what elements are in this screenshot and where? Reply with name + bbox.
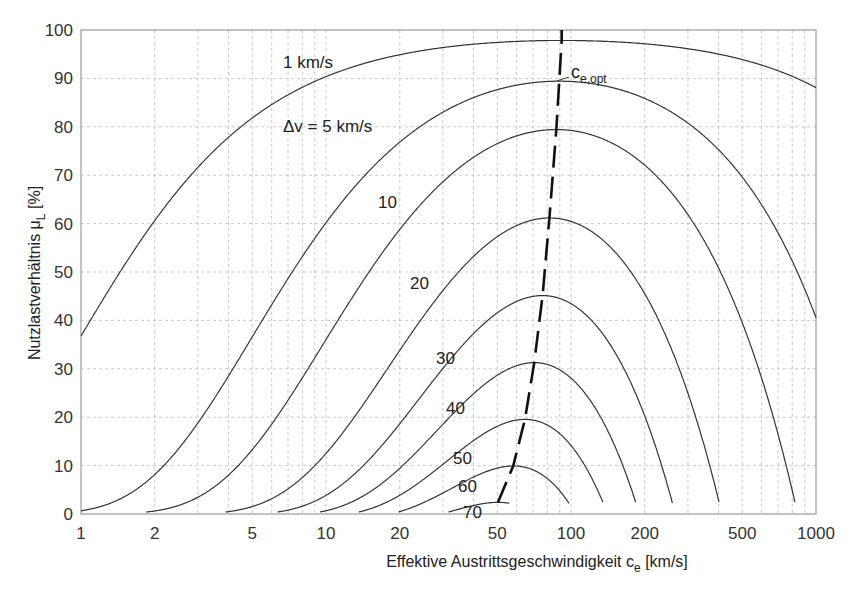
y-axis-title: Nutzlastverhältnis μL [%] [26, 186, 48, 360]
curve-labels: 1 km/sΔv = 5 km/s10203040506070 [283, 53, 482, 522]
curve-label: 30 [436, 349, 455, 368]
y-tick-label: 100 [45, 21, 73, 40]
x-tick-label: 500 [728, 524, 756, 543]
y-tick-label: 90 [54, 69, 73, 88]
curve-label: 60 [458, 477, 477, 496]
payload-ratio-chart: 0102030405060708090100 12510205010020050… [0, 0, 863, 592]
x-tick-label: 10 [317, 524, 336, 543]
curve-label: 20 [410, 274, 429, 293]
x-tick-label: 1 [76, 524, 85, 543]
curve-label: 1 km/s [283, 53, 333, 72]
x-tick-label: 100 [557, 524, 585, 543]
x-tick-label: 1000 [797, 524, 835, 543]
c-e-opt-dashed-line [498, 30, 562, 502]
y-tick-label: 20 [54, 408, 73, 427]
y-tick-label: 30 [54, 360, 73, 379]
y-tick-label: 0 [64, 505, 73, 524]
x-tick-label: 5 [248, 524, 257, 543]
y-tick-label: 80 [54, 118, 73, 137]
y-tick-label: 60 [54, 215, 73, 234]
curve-label: 10 [378, 193, 397, 212]
curves [81, 41, 816, 513]
curve-dv-5 [81, 81, 816, 511]
x-axis-title: Effektive Austrittsgeschwindigkeit ce [k… [386, 553, 688, 575]
c-e-opt-annotation: ce,opt [557, 62, 607, 86]
y-tick-label: 10 [54, 457, 73, 476]
curve-label: 50 [453, 449, 472, 468]
x-tick-label: 50 [488, 524, 507, 543]
y-tick-label: 70 [54, 166, 73, 185]
grid-lines [81, 30, 816, 514]
curve-dv-1 [81, 41, 816, 337]
x-axis-ticks: 1251020501002005001000 [76, 524, 835, 543]
curve-dv-60 [399, 466, 570, 512]
curve-dv-20 [226, 218, 720, 512]
curve-label: Δv = 5 km/s [283, 117, 372, 136]
curve-label: 40 [446, 399, 465, 418]
y-axis-ticks: 0102030405060708090100 [45, 21, 73, 524]
y-tick-label: 50 [54, 263, 73, 282]
x-tick-label: 200 [631, 524, 659, 543]
x-tick-label: 20 [390, 524, 409, 543]
x-tick-label: 2 [150, 524, 159, 543]
curve-label: 70 [463, 503, 482, 522]
y-tick-label: 40 [54, 311, 73, 330]
